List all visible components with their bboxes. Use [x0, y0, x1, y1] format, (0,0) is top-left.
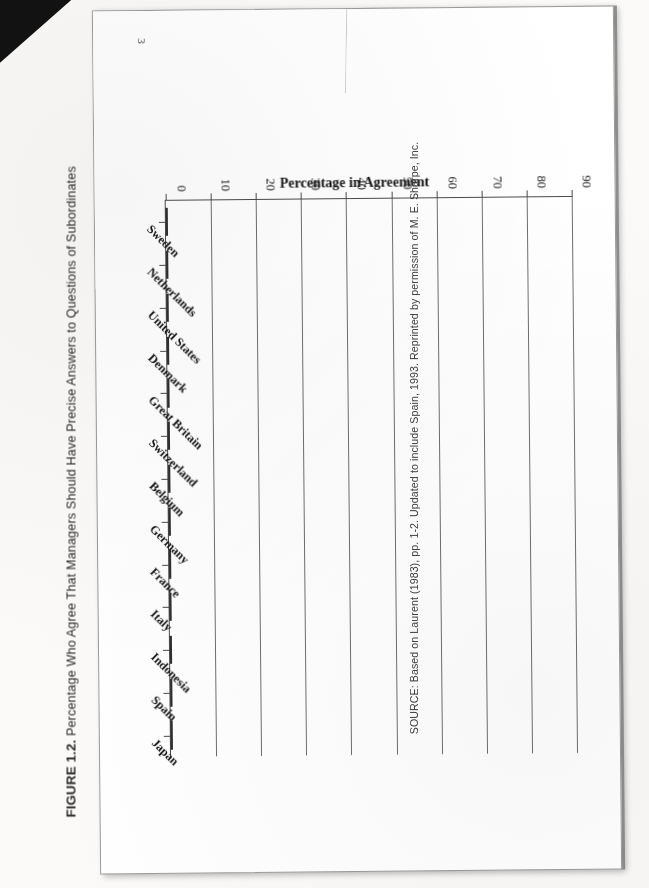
bar — [166, 208, 168, 236]
scanned-page-background: 3 Percentage in Agreement 90807060504030… — [0, 0, 649, 888]
y-axis-tick — [166, 194, 167, 201]
x-axis-tick — [164, 735, 171, 736]
x-axis-tick — [161, 436, 168, 437]
bar-slot: Great Britain — [167, 372, 169, 415]
x-axis-tick — [162, 564, 169, 565]
figure-caption-text: Percentage Who Agree That Managers Shoul… — [65, 166, 79, 736]
x-axis-tick — [160, 308, 167, 309]
bar-slot: Netherlands — [166, 244, 168, 287]
y-axis-tick — [526, 190, 527, 197]
bar-slot: Belgium — [168, 457, 170, 500]
bar-slot: France — [169, 543, 171, 586]
y-axis-tick-label: 80 — [534, 176, 549, 189]
y-axis-tick-label: 0 — [173, 185, 188, 191]
bar-slot: Sweden — [166, 201, 168, 244]
y-axis-tick — [436, 191, 437, 198]
x-axis-tick — [163, 693, 170, 694]
plot-area: 9080706050403020100 SwedenNetherlandsUni… — [165, 196, 577, 757]
bar-slot: Switzerland — [168, 415, 170, 458]
bar — [171, 721, 173, 749]
x-axis-tick — [163, 607, 170, 608]
y-axis-tick — [211, 193, 212, 200]
category-label: Japan — [148, 735, 181, 768]
x-axis-tick — [161, 393, 168, 394]
y-axis-tick — [301, 193, 302, 200]
bar-slot: Indonesia — [170, 628, 172, 671]
x-axis-tick — [161, 479, 168, 480]
bar-chart: Percentage in Agreement 9080706050403020… — [119, 88, 596, 792]
x-axis-tick — [162, 522, 169, 523]
y-axis-tick — [346, 192, 347, 199]
x-axis-tick — [159, 222, 166, 223]
bar — [168, 465, 170, 493]
y-axis-tick — [391, 192, 392, 199]
bar — [166, 251, 168, 279]
category-label: Spain — [148, 693, 180, 725]
bar — [169, 550, 171, 578]
x-axis-tick — [163, 650, 170, 651]
figure-caption-label: FIGURE 1.2. — [64, 740, 79, 818]
y-axis-tick — [256, 193, 257, 200]
chart-rotation-wrapper: Percentage in Agreement 9080706050403020… — [119, 88, 596, 792]
bar — [169, 593, 171, 621]
bar-slot: Japan — [171, 714, 173, 757]
bar-slot: Spain — [170, 671, 172, 714]
figure-panel: 3 Percentage in Agreement 90807060504030… — [92, 6, 622, 875]
bar — [167, 379, 169, 407]
y-axis-tick-label: 60 — [444, 177, 459, 190]
figure-source-note: SOURCE: Based on Laurent (1983), pp. 1-2… — [408, 18, 420, 858]
bar — [170, 636, 172, 664]
figure-panel-inner: 3 Percentage in Agreement 90807060504030… — [93, 7, 621, 874]
y-axis-tick-label: 30 — [308, 178, 323, 191]
x-axis-tick — [160, 350, 167, 351]
category-label: Sweden — [143, 222, 182, 261]
y-axis-tick-label: 20 — [263, 178, 278, 191]
y-axis-tick-label: 10 — [218, 179, 233, 192]
bar-slot: Denmark — [167, 329, 169, 372]
x-axis-tick — [159, 265, 166, 266]
bar-slot: Italy — [169, 586, 171, 629]
bar-series: SwedenNetherlandsUnited StatesDenmarkGre… — [166, 197, 577, 757]
category-label: France — [147, 564, 184, 600]
bar-slot: United States — [167, 286, 169, 329]
bar — [168, 422, 170, 450]
y-axis-tick-label: 90 — [579, 175, 594, 188]
y-axis-tick-label: 40 — [353, 177, 368, 190]
y-axis-tick — [572, 190, 573, 197]
bar — [170, 678, 172, 706]
figure-caption: FIGURE 1.2. Percentage Who Agree That Ma… — [64, 48, 79, 818]
bar-slot: Germany — [169, 500, 171, 543]
page-number: 3 — [136, 38, 148, 44]
bar — [167, 294, 169, 322]
bar — [167, 336, 169, 364]
bar — [169, 507, 171, 535]
category-label: Belgium — [146, 479, 187, 520]
y-axis-tick — [481, 191, 482, 198]
y-axis-tick-label: 70 — [489, 176, 504, 189]
